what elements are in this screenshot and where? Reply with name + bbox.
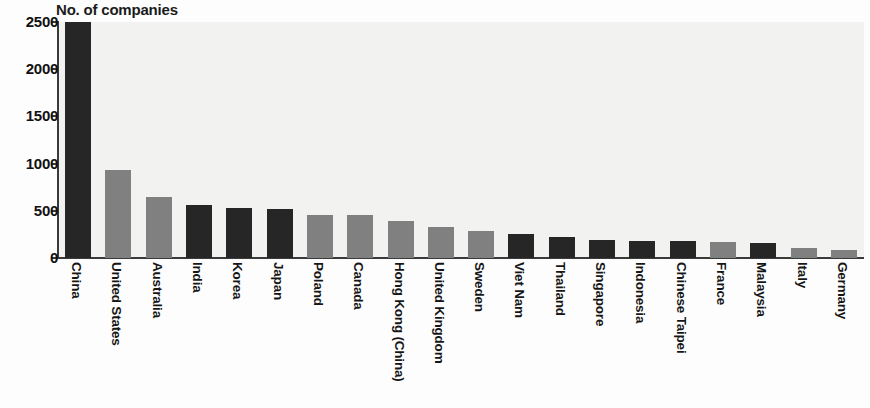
- bar: [508, 234, 534, 258]
- x-axis-label: Italy: [795, 262, 810, 288]
- chart-title: No. of companies: [56, 1, 178, 18]
- bar: [468, 231, 494, 258]
- bar: [710, 242, 736, 258]
- x-axis-label: Japan: [271, 262, 286, 300]
- x-axis-label: Indonesia: [633, 262, 648, 323]
- y-axis-tick-label: 2000: [12, 60, 58, 77]
- bar: [670, 241, 696, 258]
- x-axis-labels: ChinaUnited StatesAustraliaIndiaKoreaJap…: [58, 262, 864, 408]
- bar: [629, 241, 655, 258]
- y-axis-tick-label: 0: [12, 249, 58, 266]
- bar: [65, 22, 91, 258]
- bar: [267, 209, 293, 258]
- x-axis-label: Canada: [351, 262, 366, 310]
- x-axis-label: United States: [109, 262, 124, 346]
- bar-chart: No. of companies 05001000150020002500 Ch…: [0, 0, 870, 408]
- x-axis-label: Germany: [835, 262, 850, 319]
- bar: [388, 221, 414, 258]
- x-axis-label: Chinese Taipei: [674, 262, 689, 353]
- bar: [831, 250, 857, 258]
- x-axis-label: Australia: [150, 262, 165, 318]
- y-axis: 05001000150020002500: [0, 0, 58, 408]
- bar: [307, 215, 333, 258]
- bar: [105, 170, 131, 258]
- bar: [791, 248, 817, 258]
- x-axis-label: Singapore: [593, 262, 608, 326]
- y-axis-tick-label: 500: [12, 202, 58, 219]
- y-axis-tick-label: 2500: [12, 13, 58, 30]
- bar: [347, 215, 373, 258]
- bar: [750, 243, 776, 258]
- bar: [146, 197, 172, 258]
- x-axis-label: Malaysia: [754, 262, 769, 317]
- y-axis-tick-label: 1000: [12, 155, 58, 172]
- x-axis-label: France: [714, 262, 729, 305]
- x-axis-label: Poland: [311, 262, 326, 306]
- y-axis-tick-label: 1500: [12, 107, 58, 124]
- bar: [428, 227, 454, 258]
- bar: [186, 205, 212, 258]
- bars-layer: [58, 22, 864, 258]
- x-axis-label: Thailand: [553, 262, 568, 316]
- x-axis-label: Viet Nam: [512, 262, 527, 318]
- x-axis-label: India: [190, 262, 205, 293]
- x-axis-label: Korea: [230, 262, 245, 299]
- x-axis-label: Sweden: [472, 262, 487, 312]
- x-axis-label: United Kingdom: [432, 262, 447, 363]
- bar: [226, 208, 252, 259]
- bar: [589, 240, 615, 258]
- x-axis-label: China: [69, 262, 84, 299]
- bar: [549, 237, 575, 258]
- x-axis-label: Hong Kong (China): [392, 262, 407, 382]
